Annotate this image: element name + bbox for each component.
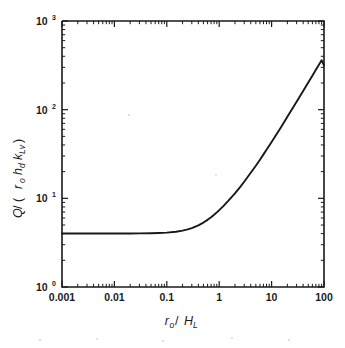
y-tick-exponent-3: 3: [52, 14, 56, 21]
x-tick-label-2: 0.1: [159, 291, 174, 303]
y-tick-exponent-0: 0: [52, 280, 56, 287]
x-tick-label-0: 0.001: [49, 291, 75, 303]
plot-background: [62, 21, 324, 287]
x-tick-label-3: 1: [216, 291, 222, 303]
x-tick-label-4: 10: [266, 291, 278, 303]
chart-svg: 10 3 10 2 10 1 10 0 0.001 0.01 0.1 1 10 …: [0, 0, 345, 348]
y-axis-label-var2: h: [11, 168, 25, 175]
figure-container: 10 3 10 2 10 1 10 0 0.001 0.01 0.1 1 10 …: [0, 0, 345, 348]
y-axis-label-var2-sub: d: [17, 163, 27, 168]
y-axis-label-var3-sub: Lv: [17, 144, 27, 154]
y-tick-base-3: 10: [36, 15, 48, 27]
x-axis-label-var2-sub: L: [193, 320, 198, 330]
y-tick-exponent-1: 1: [52, 191, 56, 198]
y-tick-base-2: 10: [36, 104, 48, 116]
x-axis-label-var1-sub: o: [170, 320, 175, 330]
x-tick-label-1: 0.01: [104, 291, 125, 303]
y-axis-label-close: ): [11, 139, 25, 143]
x-axis-label-separator: /: [175, 314, 179, 328]
y-axis-label-separator: / (: [11, 197, 25, 209]
x-tick-label-5: 100: [315, 291, 333, 303]
y-axis-label-var1-sub: o: [17, 178, 27, 183]
y-tick-base-0: 10: [36, 281, 48, 293]
y-tick-base-1: 10: [36, 192, 48, 204]
y-tick-exponent-2: 2: [52, 103, 56, 110]
